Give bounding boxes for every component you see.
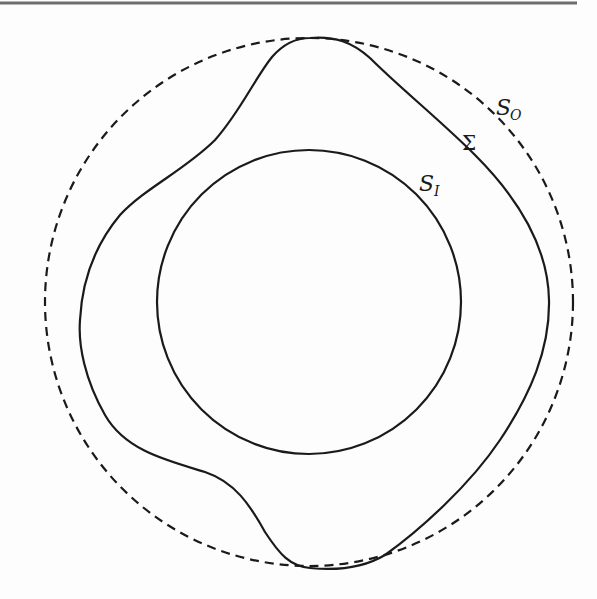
inner-surface-si xyxy=(157,150,461,454)
nested-surfaces-diagram: S O Σ S I xyxy=(0,0,597,599)
outer-surface-so xyxy=(45,38,573,566)
svg-text:S: S xyxy=(419,171,434,196)
label-sigma: Σ xyxy=(462,131,476,155)
label-so: S O xyxy=(496,95,522,123)
svg-text:I: I xyxy=(433,183,440,199)
label-si: S I xyxy=(419,171,440,199)
svg-text:Σ: Σ xyxy=(462,131,476,155)
interface-sigma-curve xyxy=(80,38,549,569)
svg-text:O: O xyxy=(510,107,522,123)
svg-text:S: S xyxy=(496,95,511,120)
